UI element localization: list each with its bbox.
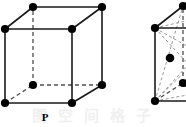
vertex-back-top-right <box>98 3 106 11</box>
lattice-figure: 图 空 间 格 子 <box>0 0 186 127</box>
vertex-front-bottom-left <box>1 99 9 107</box>
bcc-vertex-front-bottom-left <box>151 97 159 105</box>
bcc-vertex-back-bottom-left <box>179 79 186 87</box>
edge-front-bottom-left-to-back-bottom-left <box>5 85 33 103</box>
lattice-diagram-svg <box>0 0 186 127</box>
unit-cell-body-centered-cubic <box>151 2 186 105</box>
cell-label-p: P <box>28 111 62 123</box>
vertex-front-top-right <box>68 25 76 33</box>
vertex-back-bottom-left <box>29 81 37 89</box>
vertex-front-bottom-right <box>68 99 76 107</box>
diagonal-ftl-to-fbr <box>155 28 186 101</box>
bcc-edge-connect-top-left <box>155 6 183 28</box>
primitive-visible-edges <box>5 7 102 103</box>
vertex-back-bottom-right <box>98 81 106 89</box>
edge-connect-top-left <box>5 7 33 29</box>
bcc-vertex-body-center <box>166 54 175 63</box>
unit-cell-primitive-cubic <box>1 3 106 107</box>
bcc-edge-front-bottom-left-to-back-bottom-left <box>155 83 183 101</box>
bcc-vertex-front-top-left <box>151 24 159 32</box>
diagonal-fbl-to-ftr <box>155 28 186 101</box>
edge-connect-top-right <box>72 7 102 29</box>
vertex-front-top-left <box>1 25 9 33</box>
vertex-back-top-left <box>29 3 37 11</box>
edge-connect-bottom-right <box>72 85 102 103</box>
primitive-hidden-edges <box>5 7 102 103</box>
